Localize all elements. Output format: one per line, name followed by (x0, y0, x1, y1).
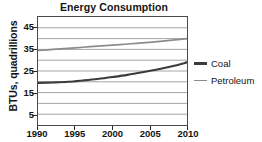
series-line-petroleum (38, 39, 187, 51)
legend-swatch (194, 62, 207, 64)
series-line-coal (38, 62, 187, 83)
chart-figure: Energy Consumption BTUs, quadrillions 51… (0, 0, 262, 142)
plot-area (37, 16, 188, 126)
legend-item[interactable]: Coal (194, 56, 262, 71)
x-tick-label: 1990 (19, 128, 55, 140)
y-axis-tick-labels: 515253545 (0, 16, 34, 126)
x-tick-label: 2000 (95, 128, 131, 140)
y-tick-label: 35 (4, 44, 34, 54)
x-axis-tick-labels: 19901995200020052010 (37, 128, 188, 142)
chart-title: Energy Consumption (38, 0, 190, 14)
legend-label: Coal (211, 58, 231, 69)
data-series-lines (38, 17, 187, 125)
y-tick-label: 45 (4, 22, 34, 32)
y-tick-label: 15 (4, 88, 34, 98)
legend-label: Petroleum (211, 75, 254, 86)
x-tick-label: 2010 (170, 128, 206, 140)
y-tick-label: 25 (4, 66, 34, 76)
y-tick-label: 5 (4, 110, 34, 120)
legend-item[interactable]: Petroleum (194, 73, 262, 88)
legend-swatch (194, 80, 207, 82)
chart-legend: CoalPetroleum (194, 56, 262, 90)
x-tick-label: 1995 (57, 128, 93, 140)
x-tick-label: 2005 (132, 128, 168, 140)
